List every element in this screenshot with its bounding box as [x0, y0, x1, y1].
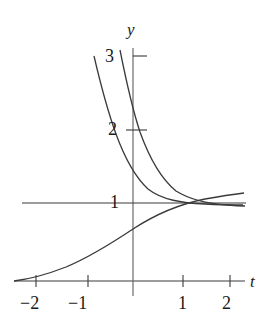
- y-tick-label-1: 1: [110, 193, 119, 211]
- y-tick-label-3: 3: [105, 47, 114, 65]
- y-axis-label: y: [127, 21, 135, 38]
- x-tick-label-plus-1: 1: [178, 294, 187, 312]
- figure-canvas: y t 3 2 1 −2 −1 1 2: [0, 0, 272, 323]
- x-tick-label-plus-2: 2: [222, 294, 231, 312]
- y-tick-label-2: 2: [108, 120, 117, 138]
- x-axis-label: t: [250, 273, 255, 290]
- x-tick-label-minus-2: −2: [20, 294, 39, 312]
- x-tick-label-minus-1: −1: [68, 294, 87, 312]
- plot-svg: [0, 0, 272, 323]
- solution-curves-group: [14, 50, 246, 281]
- curve-lower-rising: [14, 193, 244, 281]
- curve-upper-right: [120, 50, 245, 206]
- axes-group: [14, 48, 245, 296]
